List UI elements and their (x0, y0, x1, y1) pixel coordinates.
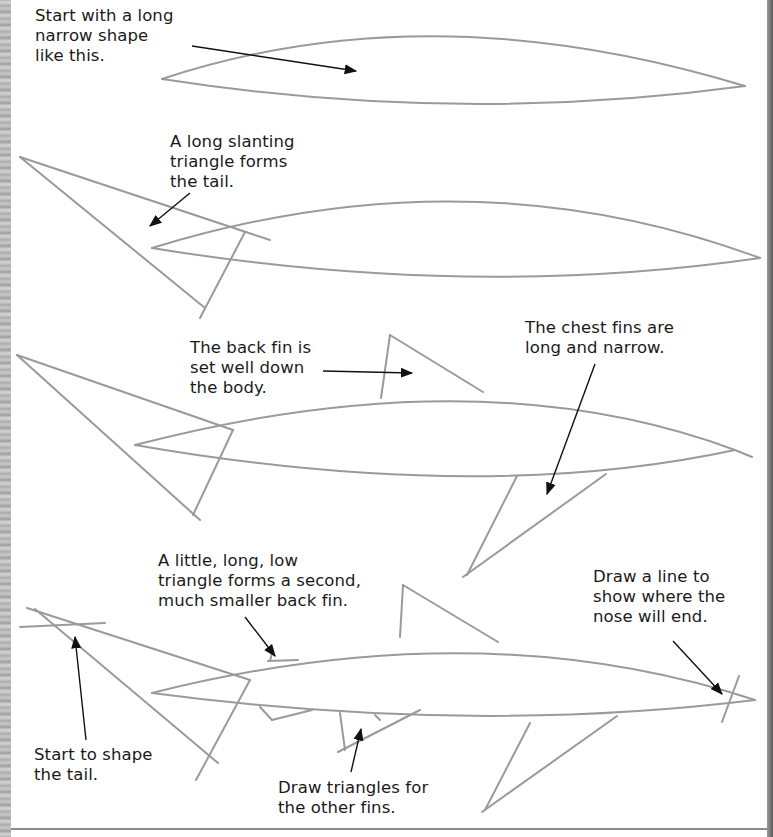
caption-step4-other-fins: Draw triangles for the other fins. (278, 778, 428, 818)
step4-tail-arrow (75, 637, 86, 740)
caption-step4-nose-line: Draw a line to show where the nose will … (593, 567, 725, 627)
caption-step1-body: Start with a long narrow shape like this… (35, 6, 173, 66)
step3-sketch (17, 335, 752, 577)
step3-backfin-arrow (323, 371, 412, 373)
step3-chestfin-arrow (547, 364, 595, 494)
caption-step2-tail: A long slanting triangle forms the tail. (170, 132, 295, 192)
shark-sketches (0, 0, 773, 837)
step4-nose-arrow (673, 641, 722, 694)
step2-sketch (20, 157, 760, 318)
step4-otherfins-arrow (351, 729, 361, 772)
caption-step3-chest-fins: The chest fins are long and narrow. (525, 318, 674, 358)
step4-smallfin-arrow (245, 617, 275, 656)
caption-step4-shape-tail: Start to shape the tail. (34, 745, 153, 785)
step1-body-sketch (162, 36, 745, 104)
step2-arrow (150, 193, 190, 226)
caption-step4-small-back-fin: A little, long, low triangle forms a sec… (158, 551, 361, 611)
caption-step3-back-fin: The back fin is set well down the body. (190, 338, 311, 398)
tutorial-page: Start with a long narrow shape like this… (0, 0, 773, 837)
